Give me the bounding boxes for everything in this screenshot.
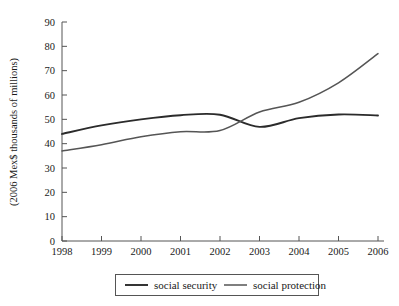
legend-label-social-security: social security — [154, 279, 218, 291]
y-tick-label: 70 — [45, 65, 56, 76]
y-tick-label: 0 — [50, 236, 55, 247]
x-tick-label: 1998 — [52, 246, 73, 257]
series-group — [62, 54, 378, 151]
line-chart: (2006 Mex$ thousands of millions) 010203… — [0, 0, 399, 306]
y-tick-label: 30 — [45, 163, 56, 174]
y-tick-label: 40 — [45, 138, 56, 149]
x-axis-ticks: 199819992000200120022003200420052006 — [52, 236, 389, 257]
series-line-social-protection — [62, 54, 378, 151]
legend-label-social-protection: social protection — [253, 279, 327, 291]
chart-legend: social security social protection — [116, 275, 327, 296]
x-tick-label: 1999 — [91, 246, 112, 257]
y-axis-title: (2006 Mex$ thousands of millions) — [8, 57, 20, 206]
x-tick-label: 2004 — [289, 246, 311, 257]
x-tick-label: 2003 — [249, 246, 270, 257]
y-axis-ticks: 0102030405060708090 — [45, 17, 68, 247]
y-tick-label: 10 — [45, 211, 56, 222]
y-tick-label: 20 — [45, 187, 56, 198]
x-tick-label: 2001 — [170, 246, 191, 257]
y-tick-label: 80 — [45, 41, 56, 52]
chart-container: (2006 Mex$ thousands of millions) 010203… — [0, 0, 399, 306]
x-tick-label: 2005 — [328, 246, 349, 257]
y-tick-label: 60 — [45, 90, 56, 101]
y-tick-label: 50 — [45, 114, 56, 125]
x-tick-label: 2006 — [368, 246, 389, 257]
x-tick-label: 2000 — [131, 246, 152, 257]
y-tick-label: 90 — [45, 17, 56, 28]
x-tick-label: 2002 — [210, 246, 231, 257]
